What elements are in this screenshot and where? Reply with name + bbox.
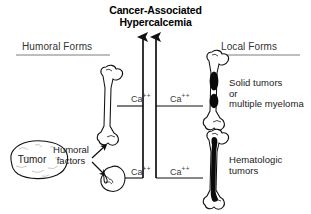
calcium-label-local-bone-upper: Ca++ [170, 92, 190, 104]
page-title: Cancer-AssociatedHypercalcemia [0, 5, 311, 29]
calcium-charge: ++ [143, 165, 151, 172]
humoral-factors-line-2: factors [48, 156, 94, 167]
solid-line-3: multiple myeloma [229, 99, 304, 110]
calcium-label-local-bone-lower: Ca++ [170, 165, 190, 177]
label-hematologic-tumors: Hematologictumors [229, 155, 282, 176]
title-line-1: Cancer-Associated [109, 4, 202, 16]
bone-local-solid [203, 50, 228, 130]
calcium-symbol: Ca [131, 94, 143, 104]
section-heading-humoral: Humoral Forms [22, 41, 92, 52]
hematologic-line-2: tumors [229, 166, 282, 177]
calcium-charge: ++ [143, 92, 151, 99]
calcium-label-humoral-bone: Ca++ [131, 92, 151, 104]
title-line-2: Hypercalcemia [0, 17, 311, 29]
calcium-charge: ++ [182, 92, 190, 99]
kidney-humoral [101, 166, 125, 191]
humoral-factors-label: Humoralfactors [48, 145, 94, 166]
bone-local-hematologic [203, 129, 228, 209]
label-solid-tumors: Solid tumorsormultiple myeloma [229, 78, 304, 110]
calcium-symbol: Ca [170, 167, 182, 177]
lytic-lesion-lower [210, 94, 219, 108]
trunk-arrows [143, 37, 156, 178]
calcium-connectors [117, 106, 203, 178]
lytic-lesion-upper [210, 72, 219, 91]
calcium-symbol: Ca [131, 167, 143, 177]
diagram-canvas: Cancer-AssociatedHypercalcemia Humoral F… [0, 0, 311, 214]
calcium-charge: ++ [182, 165, 190, 172]
section-heading-local: Local Forms [221, 41, 277, 52]
calcium-symbol: Ca [170, 94, 182, 104]
solid-line-1: Solid tumors [229, 78, 304, 89]
bone-humoral [97, 65, 122, 145]
calcium-label-humoral-kidney: Ca++ [131, 165, 151, 177]
